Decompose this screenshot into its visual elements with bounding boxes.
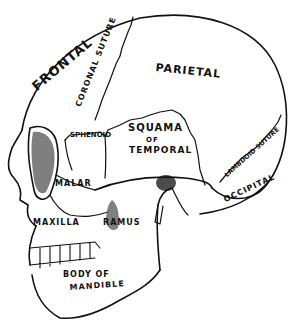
label-malar: MALAR [55,180,92,188]
ramus-outline [157,188,172,270]
label-maxilla: MAXILLA [33,219,80,227]
label-sphenoid: SPHENOID [70,132,111,139]
label-ramus: RAMUS [103,219,141,227]
orbit-shading [31,132,54,194]
ear-canal [156,175,176,191]
label-squama: SQUAMA [128,123,183,133]
label-body-of: BODY OF [63,271,110,279]
label-of: OF [146,137,159,144]
label-temporal: TEMPORAL [129,146,192,155]
teeth [30,242,100,268]
skull-diagram: FRONTAL CORONAL SUTURE PARIETAL SPHENOID… [0,0,289,324]
